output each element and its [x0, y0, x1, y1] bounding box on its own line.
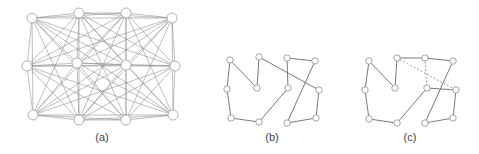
- graph-edge: [77, 63, 79, 120]
- panel-c-tour-modified: [362, 55, 459, 126]
- graph-node: [312, 58, 318, 64]
- graph-edge: [126, 18, 172, 120]
- tour-edge: [395, 58, 397, 88]
- graph-node: [74, 8, 84, 18]
- graph-edge: [77, 63, 173, 115]
- graph-node: [424, 85, 430, 91]
- graph-node: [167, 13, 177, 23]
- graph-node: [228, 115, 234, 121]
- graph-edge: [32, 18, 77, 63]
- graph-node: [72, 58, 82, 68]
- panel-b-label: (b): [265, 131, 278, 143]
- graph-edge: [126, 18, 172, 65]
- graph-node: [168, 110, 178, 120]
- tour-edge: [369, 119, 397, 123]
- panel-b-edges: [227, 57, 319, 123]
- graph-node: [170, 61, 180, 71]
- graph-node: [74, 115, 84, 125]
- graph-node: [256, 119, 262, 125]
- panel-c-edges: [365, 58, 456, 123]
- graph-node: [366, 116, 372, 122]
- graph-node: [392, 85, 398, 91]
- tour-edge: [397, 88, 427, 123]
- graph-node: [366, 58, 372, 64]
- graph-node: [316, 87, 322, 93]
- graph-node: [22, 61, 32, 71]
- graph-node: [394, 55, 400, 61]
- graph-edge: [33, 18, 172, 115]
- tour-edge: [365, 61, 369, 90]
- graph-node: [121, 115, 131, 125]
- graph-edge: [79, 66, 175, 120]
- graph-node: [362, 87, 368, 93]
- graph-node: [285, 85, 291, 91]
- tour-edge: [230, 60, 257, 88]
- graph-node: [422, 120, 428, 126]
- tour-edge: [425, 58, 453, 61]
- graph-node: [394, 120, 400, 126]
- graph-edge: [27, 66, 33, 115]
- panel-a-edges: [27, 13, 175, 120]
- tour-edge: [425, 118, 453, 123]
- panel-b-tour: [224, 54, 322, 126]
- graph-node: [313, 115, 319, 121]
- graph-node: [28, 110, 38, 120]
- tour-edge: [316, 90, 319, 118]
- graph-node: [450, 115, 456, 121]
- graph-edge: [32, 13, 79, 18]
- graph-node: [224, 86, 230, 92]
- tour-edge: [287, 61, 315, 123]
- graph-edge: [33, 66, 175, 115]
- graph-node: [27, 13, 37, 23]
- panel-c-label: (c): [404, 131, 417, 143]
- graph-edge: [126, 115, 173, 120]
- graph-edge: [33, 115, 79, 120]
- tour-edge: [287, 58, 315, 61]
- graph-node: [121, 60, 131, 70]
- graph-edge: [27, 18, 32, 66]
- tour-edge: [369, 61, 395, 88]
- graph-node: [256, 54, 262, 60]
- dotted-edge: [425, 58, 427, 88]
- graph-node: [450, 58, 456, 64]
- graph-node: [284, 55, 290, 61]
- tour-edge: [227, 60, 230, 89]
- graph-edge: [126, 13, 173, 115]
- graph-node: [453, 87, 459, 93]
- tour-edge: [227, 89, 231, 118]
- tour-edge: [259, 88, 288, 122]
- tour-edge: [231, 118, 259, 122]
- panel-a-complete-graph: [22, 8, 180, 125]
- graph-edge: [173, 66, 175, 115]
- panel-a-label: (a): [95, 131, 108, 143]
- tour-edge: [427, 88, 456, 90]
- graph-node: [121, 8, 131, 18]
- graph-node: [254, 85, 260, 91]
- tour-edge: [425, 61, 453, 123]
- graph-node: [227, 57, 233, 63]
- graph-edge: [126, 65, 173, 115]
- graph-node: [284, 120, 290, 126]
- graph-edge: [77, 13, 79, 63]
- tour-edge: [287, 118, 316, 123]
- graph-edge: [27, 66, 173, 115]
- graph-node: [422, 55, 428, 61]
- tour-edge: [257, 57, 259, 88]
- tour-edge: [365, 90, 369, 119]
- tour-edge: [453, 90, 456, 118]
- graph-edge: [126, 13, 172, 18]
